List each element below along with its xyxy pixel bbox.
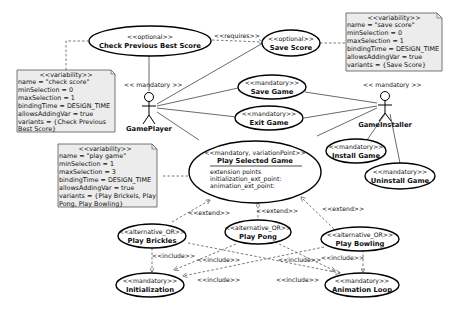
svg-text:Check Previous Best Score: Check Previous Best Score	[99, 42, 201, 50]
svg-text:<<optional>>: <<optional>>	[268, 35, 314, 43]
use-case-save-game[interactable]: <<mandatory>> Save Game	[238, 75, 306, 99]
svg-text:Install Game: Install Game	[332, 152, 381, 160]
svg-text:Initialization: Initialization	[126, 286, 174, 294]
use-case-uninstall-game[interactable]: <<mandatory>> Uninstall Game	[365, 163, 435, 189]
svg-text:Save Game: Save Game	[251, 88, 294, 96]
svg-text:<<mandatory>>: <<mandatory>>	[123, 277, 178, 285]
svg-text:Save Score: Save Score	[270, 44, 313, 52]
actor-gameinstaller-name: GameInstaller	[358, 121, 412, 129]
svg-text:Play Brickles: Play Brickles	[128, 237, 177, 245]
use-case-play-pong[interactable]: <<alternative_OR>> Play Pong	[225, 220, 292, 244]
svg-text:name = "play game": name = "play game"	[59, 152, 126, 160]
svg-text:Best Score}: Best Score}	[18, 125, 56, 133]
use-case-play-brickles[interactable]: <<alternative_OR>> Play Brickles	[118, 224, 186, 248]
include-label-4: <<include>>	[321, 254, 364, 261]
svg-text:<<mandatory, variationPoint>>: <<mandatory, variationPoint>>	[204, 149, 305, 157]
svg-text:variants = {Play Brickels, Pla: variants = {Play Brickels, Play	[59, 192, 156, 200]
svg-text:<<mandatory>>: <<mandatory>>	[245, 79, 300, 87]
use-case-save-score[interactable]: <<optional>> Save Score	[262, 30, 320, 56]
svg-text:variants = {Save Score}: variants = {Save Score}	[347, 61, 426, 69]
svg-text:minSelection = 0: minSelection = 0	[347, 29, 402, 37]
extend-label-bowling: <<extend>>	[322, 205, 364, 212]
note-play-game: <<variability>> name = "play game" minSe…	[58, 144, 157, 208]
svg-text:<<mandatory>>: <<mandatory>>	[329, 143, 384, 151]
svg-text:Play Selected Game: Play Selected Game	[217, 157, 293, 165]
actor-gameplayer[interactable]: << mandatory >> GamePlayer	[124, 81, 183, 133]
svg-text:Pong, Play Bowling}: Pong, Play Bowling}	[59, 200, 123, 208]
requires-label: <<requires>>	[214, 32, 260, 40]
svg-text:bindingTime = DESIGN_TIME: bindingTime = DESIGN_TIME	[347, 45, 439, 53]
svg-text:maxSelection = 3: maxSelection = 3	[59, 168, 116, 176]
use-case-play-bowling[interactable]: <<alternative_OR>> Play Bowling	[321, 227, 399, 251]
svg-text:<<alternative_OR>>: <<alternative_OR>>	[119, 228, 186, 236]
stick-figure-icon	[142, 93, 156, 125]
use-case-check-previous-best-score[interactable]: <<optional>> Check Previous Best Score	[89, 26, 211, 56]
svg-text:Uninstall Game: Uninstall Game	[371, 177, 430, 185]
actor-gameinstaller[interactable]: << mandatory >> GameInstaller	[358, 81, 421, 129]
svg-text:Animation Loop: Animation Loop	[332, 286, 392, 294]
svg-text:name = "check score": name = "check score"	[18, 78, 89, 86]
actor-gameplayer-name: GamePlayer	[126, 125, 173, 133]
actor-gameplayer-stereotype: << mandatory >>	[124, 81, 183, 89]
svg-text:allowsAddingVar = true: allowsAddingVar = true	[59, 184, 134, 192]
extend-label-brickles: <<extend>>	[188, 209, 230, 216]
svg-text:allowsAddingVar = true: allowsAddingVar = true	[18, 110, 93, 118]
svg-text:<<alternative_OR>>: <<alternative_OR>>	[225, 224, 292, 232]
svg-text:Play Pong: Play Pong	[239, 233, 277, 241]
svg-text:minSelection = 1: minSelection = 1	[59, 160, 114, 168]
use-case-play-selected-game[interactable]: <<mandatory, variationPoint>> Play Selec…	[189, 141, 321, 203]
svg-text:maxSelection = 1: maxSelection = 1	[18, 94, 75, 102]
svg-text:animation_ext_point:: animation_ext_point:	[210, 182, 275, 190]
extend-label-pong: <<extend>>	[256, 207, 298, 214]
include-label-1: <<include>>	[152, 252, 195, 259]
include-label-2: <<include>>	[197, 256, 240, 263]
note-check-score: <<variability>> name = "check score" min…	[17, 70, 115, 133]
svg-text:<<mandatory>>: <<mandatory>>	[373, 168, 428, 176]
svg-text:<<mandatory>>: <<mandatory>>	[242, 110, 297, 118]
include-label-6: <<include>>	[276, 276, 319, 283]
use-case-exit-game[interactable]: <<mandatory>> Exit Game	[235, 106, 303, 130]
actor-gameinstaller-stereotype: << mandatory >>	[363, 81, 422, 89]
svg-text:maxSelection = 1: maxSelection = 1	[347, 37, 404, 45]
svg-text:bindingTime = DESIGN_TIME: bindingTime = DESIGN_TIME	[18, 102, 110, 110]
svg-text:allowsAddingVar = true: allowsAddingVar = true	[347, 53, 422, 61]
include-label-5: <<include>>	[197, 276, 240, 283]
stick-figure-icon	[378, 92, 392, 122]
note-save-score: <<variability>> name = "save score" minS…	[346, 13, 442, 71]
svg-text:Exit Game: Exit Game	[250, 119, 289, 127]
use-case-install-game[interactable]: <<mandatory>> Install Game	[326, 139, 386, 163]
use-case-animation-loop[interactable]: <<mandatory>> Animation Loop	[325, 273, 399, 297]
svg-text:<<mandatory>>: <<mandatory>>	[335, 277, 390, 285]
svg-text:bindingTime = DESIGN_TIME: bindingTime = DESIGN_TIME	[59, 176, 151, 184]
svg-text:minSelection = 0: minSelection = 0	[18, 86, 73, 94]
use-case-initialization[interactable]: <<mandatory>> Initialization	[116, 273, 184, 297]
svg-text:Play Bowling: Play Bowling	[336, 240, 385, 248]
include-label-3: <<include>>	[278, 256, 321, 263]
svg-text:<<alternative_OR>>: <<alternative_OR>>	[327, 231, 394, 239]
svg-text:name = "save score": name = "save score"	[347, 21, 415, 29]
use-case-diagram: <<requires>> <<extend>> <<extend>> <<ext…	[0, 0, 451, 311]
svg-text:<<optional>>: <<optional>>	[127, 33, 173, 41]
